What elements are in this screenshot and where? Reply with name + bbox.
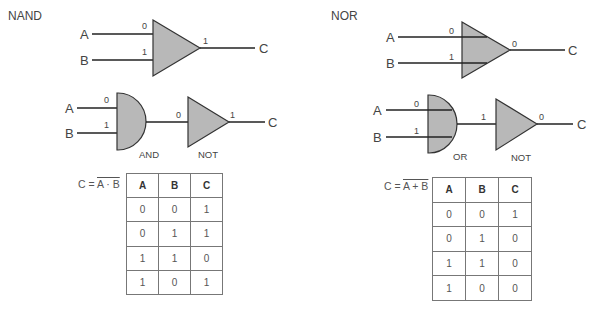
header-c: C — [191, 174, 223, 198]
not-gate-label: NOT — [198, 149, 218, 160]
cell-c: 0 — [191, 246, 223, 270]
table-row: 0 0 1 — [127, 198, 223, 222]
cell-a: 1 — [433, 276, 466, 301]
nand-top-bit-b: 1 — [142, 47, 147, 57]
nor-top-input-b: B — [386, 56, 395, 71]
nor-top-output-c: C — [568, 43, 577, 58]
cell-b: 0 — [466, 276, 499, 301]
nor-top-bit-b: 1 — [449, 52, 454, 62]
cell-b: 0 — [466, 202, 499, 227]
table-header-row: A B C — [433, 178, 532, 203]
nand-top-bit-a: 0 — [142, 21, 147, 31]
nand-truth-table: A B C 0 0 1 0 1 1 1 1 0 1 0 1 — [126, 173, 223, 295]
or-gate-icon — [428, 95, 457, 153]
header-b: B — [466, 178, 499, 203]
cell-a: 1 — [127, 246, 159, 270]
nor-formula-lhs: C = — [384, 180, 401, 192]
cell-b: 1 — [159, 222, 191, 246]
not-gate-icon — [188, 97, 229, 147]
table-row: 0 0 1 — [433, 202, 532, 227]
nand-top-output-c: C — [259, 41, 268, 56]
nand-mid-bit-out: 1 — [230, 110, 235, 120]
cell-a: 0 — [433, 227, 466, 252]
nor-mid-bit-b: 1 — [414, 126, 419, 136]
table-row: 1 0 1 — [127, 270, 223, 294]
and-gate-label: AND — [139, 149, 159, 160]
header-c: C — [499, 178, 532, 203]
nor-truth-table: A B C 0 0 1 0 1 0 1 1 0 1 0 0 — [432, 177, 532, 301]
cell-a: 1 — [433, 251, 466, 276]
cell-c: 0 — [499, 276, 532, 301]
cell-c: 1 — [499, 202, 532, 227]
nor-mid-bit-out: 0 — [539, 112, 544, 122]
nand-top-input-a: A — [80, 27, 89, 42]
table-row: 1 0 0 — [433, 276, 532, 301]
nand-top-circuit: A B C 0 1 1 — [80, 20, 268, 76]
nor-formula-rhs: A + B — [403, 180, 428, 192]
nor-equivalent-circuit: A B C 0 1 1 0 OR NOT — [373, 95, 586, 163]
cell-b: 1 — [466, 227, 499, 252]
nand-formula-rhs: A · B — [97, 178, 120, 190]
nor-mid-output-c: C — [577, 117, 586, 132]
nor-mid-input-a: A — [373, 103, 382, 118]
cell-c: 1 — [191, 222, 223, 246]
cell-b: 1 — [159, 246, 191, 270]
nor-mid-input-b: B — [373, 130, 382, 145]
nand-mid-bit-link: 0 — [176, 110, 181, 120]
cell-c: 1 — [191, 270, 223, 294]
nor-mid-bit-link: 1 — [481, 112, 486, 122]
nand-mid-bit-b: 1 — [104, 120, 109, 130]
table-row: 1 1 0 — [127, 246, 223, 270]
nor-top-circuit: A B C 0 1 0 — [386, 22, 577, 78]
nand-equivalent-circuit: A B C 0 1 0 1 AND NOT — [65, 93, 277, 160]
nand-top-input-b: B — [80, 53, 89, 68]
cell-c: 0 — [499, 251, 532, 276]
cell-b: 0 — [159, 270, 191, 294]
nand-mid-bit-a: 0 — [104, 95, 109, 105]
not-gate-label: NOT — [511, 152, 531, 163]
nor-formula: C = A + B — [384, 180, 428, 192]
nand-mid-input-b: B — [65, 126, 74, 141]
cell-b: 0 — [159, 198, 191, 222]
nand-formula-lhs: C = — [78, 178, 95, 190]
cell-b: 1 — [466, 251, 499, 276]
cell-a: 1 — [127, 270, 159, 294]
nand-gate-icon — [153, 20, 200, 76]
nand-top-bit-out: 1 — [203, 36, 208, 46]
or-gate-label: OR — [453, 151, 467, 162]
cell-c: 0 — [499, 227, 532, 252]
nor-gate-icon — [462, 22, 510, 78]
header-a: A — [433, 178, 466, 203]
cell-c: 1 — [191, 198, 223, 222]
cell-a: 0 — [127, 222, 159, 246]
nand-title: NAND — [8, 9, 42, 23]
nor-mid-bit-a: 0 — [414, 99, 419, 109]
nor-top-bit-out: 0 — [512, 39, 517, 49]
nor-title: NOR — [331, 9, 358, 23]
nor-top-bit-a: 0 — [449, 26, 454, 36]
cell-a: 0 — [433, 202, 466, 227]
table-row: 0 1 0 — [433, 227, 532, 252]
header-a: A — [127, 174, 159, 198]
header-b: B — [159, 174, 191, 198]
and-gate-icon — [117, 93, 146, 150]
table-row: 0 1 1 — [127, 222, 223, 246]
nor-top-input-a: A — [386, 30, 395, 45]
table-header-row: A B C — [127, 174, 223, 198]
nand-mid-output-c: C — [268, 115, 277, 130]
cell-a: 0 — [127, 198, 159, 222]
not-gate-icon — [496, 99, 537, 150]
nand-formula: C = A · B — [78, 178, 120, 190]
nand-mid-input-a: A — [65, 101, 74, 116]
table-row: 1 1 0 — [433, 251, 532, 276]
